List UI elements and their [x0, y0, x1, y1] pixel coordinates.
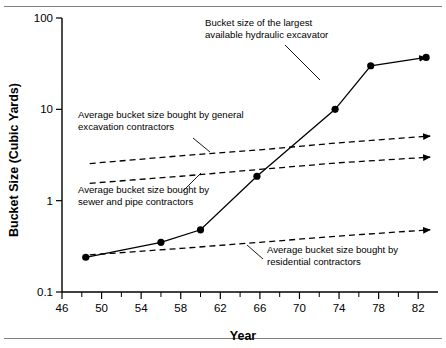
- chart-canvas: 0.111010046505458626670747882 Bucket siz…: [0, 0, 446, 348]
- x-tick-label: 50: [95, 302, 108, 314]
- x-tick-label: 74: [333, 302, 346, 314]
- x-tick-label: 62: [214, 302, 227, 314]
- chart-figure: 0.111010046505458626670747882 Bucket siz…: [0, 0, 446, 348]
- data-point: [197, 226, 204, 233]
- annotation-general-excavation-line2: excavation contractors: [78, 121, 174, 132]
- annotation-general-excavation-leader: [193, 138, 210, 152]
- x-tick-label: 54: [135, 302, 148, 314]
- y-tick-label: 10: [40, 103, 53, 115]
- annotation-largest-excavator-line1: Bucket size of the largest: [205, 17, 313, 28]
- plot-series-group: [82, 54, 430, 261]
- data-point: [367, 62, 374, 69]
- annotation-sewer-pipe-line1: Average bucket size bought by: [78, 184, 209, 195]
- y-tick-label: 0.1: [37, 286, 53, 298]
- annotation-residential-line1: Average bucket size bought by: [267, 244, 398, 255]
- x-tick-label: 82: [412, 302, 425, 314]
- x-tick-label: 46: [56, 302, 69, 314]
- data-point: [423, 54, 430, 61]
- annotation-sewer-pipe-line2: sewer and pipe contractors: [78, 196, 193, 207]
- y-tick-label: 1: [47, 195, 53, 207]
- series-line-1: [90, 136, 430, 163]
- data-point: [331, 106, 338, 113]
- annotation-largest-excavator-line2: available hydraulic excavator: [205, 29, 329, 40]
- x-tick-label: 70: [293, 302, 306, 314]
- x-tick-label: 58: [174, 302, 187, 314]
- data-point: [253, 173, 260, 180]
- y-tick-label: 100: [34, 12, 53, 24]
- y-axis-title: Bucket Size (Cubic Yards): [7, 83, 21, 237]
- data-point: [82, 254, 89, 261]
- data-point: [157, 239, 164, 246]
- annotation-general-excavation-line1: Average bucket size bought by general: [78, 109, 244, 120]
- series-line-0: [86, 57, 426, 257]
- annotation-residential-leader: [247, 245, 263, 259]
- x-tick-label: 78: [372, 302, 385, 314]
- x-axis-title: Year: [230, 329, 257, 343]
- annotation-largest-excavator-leader: [285, 45, 320, 80]
- x-tick-label: 66: [253, 302, 266, 314]
- series-line-2: [90, 157, 430, 183]
- annotation-residential-line2: residential contractors: [267, 256, 361, 267]
